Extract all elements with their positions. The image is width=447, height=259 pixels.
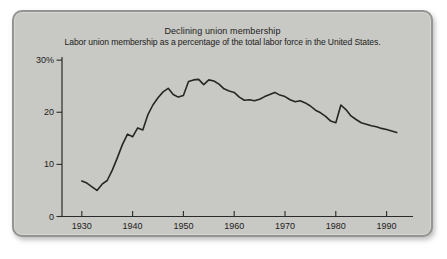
chart-panel: Declining union membership Labor union m…: [12, 10, 433, 237]
chart-title: Declining union membership: [14, 26, 431, 37]
chart-subtitle: Labor union membership as a percentage o…: [14, 37, 431, 47]
figure-stage: Declining union membership Labor union m…: [0, 0, 447, 259]
